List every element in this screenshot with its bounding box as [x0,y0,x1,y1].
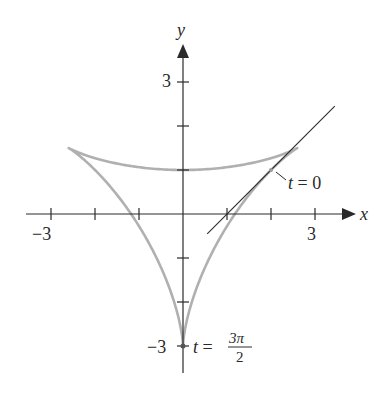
x-axis-arrow-icon [342,208,356,220]
x-tick-label-3: 3 [307,224,316,244]
y-axis-label: y [175,20,185,40]
parametric-curve-figure: x y −3 3 3 −3 t = 0 t = 3π 2 [0,0,385,394]
t3pi2-denominator: 2 [236,349,244,365]
x-tick-label-neg3: −3 [32,224,51,244]
y-tick-label-neg3: −3 [147,337,166,357]
t3pi2-numerator: 3π [228,330,245,346]
x-axis-label: x [359,204,368,224]
y-tick-label-3: 3 [162,71,171,91]
y-axis-arrow-icon [177,44,189,58]
t0-leader-line [276,172,286,180]
t3pi2-label: t = [193,337,213,357]
point-t0 [269,168,273,172]
t0-label: t = 0 [288,173,321,193]
point-t3pi2 [181,344,186,349]
